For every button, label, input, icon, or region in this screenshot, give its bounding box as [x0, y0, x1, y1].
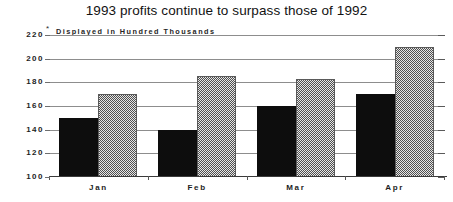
bar-1993-Jan — [98, 94, 137, 177]
y-axis-tick-label: 140 — [26, 125, 44, 134]
x-axis-tick-mark — [148, 176, 149, 180]
y-axis-tick-mark — [45, 177, 50, 178]
y-axis-tick-mark-right — [438, 82, 445, 83]
y-axis-tick-label: 120 — [26, 148, 44, 157]
y-axis-tick-mark — [45, 106, 50, 107]
y-axis-tick-mark — [45, 82, 50, 83]
y-axis-tick-label: 220 — [26, 30, 44, 39]
y-axis-tick-mark-right — [438, 130, 445, 131]
bar-1993-Mar — [296, 79, 335, 177]
x-axis-label-Jan: Jan — [49, 183, 148, 192]
bar-1992-Apr — [356, 94, 395, 177]
y-axis-tick-mark — [45, 35, 50, 36]
y-axis-tick-mark-right — [438, 153, 445, 154]
y-axis-tick-label: 160 — [26, 101, 44, 110]
bar-1992-Mar — [257, 106, 296, 177]
x-axis-label-Apr: Apr — [345, 183, 444, 192]
bar-1992-Feb — [158, 130, 197, 177]
y-axis-tick-mark-right — [438, 35, 445, 36]
x-axis-tick-mark — [247, 176, 248, 180]
subtitle-marker-icon: * — [46, 24, 49, 33]
y-axis-tick-mark — [45, 59, 50, 60]
plot-area — [49, 35, 444, 177]
y-axis-labels: 100120140160180200220 — [0, 35, 44, 177]
x-axis-label-Mar: Mar — [247, 183, 346, 192]
bar-1993-Feb — [197, 76, 236, 177]
y-axis-tick-mark — [45, 130, 50, 131]
x-axis-label-Feb: Feb — [148, 183, 247, 192]
y-axis-tick-label: 180 — [26, 77, 44, 86]
x-axis-tick-mark — [345, 176, 346, 180]
chart-title: 1993 profits continue to surpass those o… — [0, 3, 453, 18]
bar-1993-Apr — [395, 47, 434, 177]
y-axis-tick-mark-right — [438, 177, 445, 178]
chart-container: 1993 profits continue to surpass those o… — [0, 0, 453, 202]
bar-1992-Jan — [59, 118, 98, 177]
y-axis-tick-label: 200 — [26, 54, 44, 63]
y-axis-tick-mark-right — [438, 106, 445, 107]
y-axis-tick-mark-right — [438, 59, 445, 60]
bars-layer — [49, 35, 444, 177]
x-axis-line — [49, 176, 447, 177]
y-axis-tick-mark — [45, 153, 50, 154]
y-axis-tick-label: 100 — [26, 172, 44, 181]
